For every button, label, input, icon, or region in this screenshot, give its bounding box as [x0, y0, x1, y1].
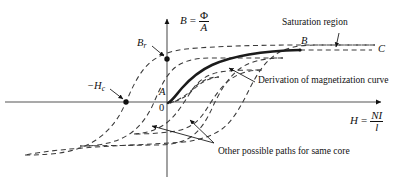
- major-hysteresis-loop: [25, 45, 375, 155]
- br-label-subscript: r: [143, 41, 146, 50]
- y-axis-symbol: B: [180, 14, 187, 26]
- y-axis-label: B=ΦA: [180, 10, 209, 33]
- y-axis-denominator: A: [199, 22, 209, 33]
- minor-loop-3-upper-branch: [170, 77, 219, 103]
- saturation-region-annotation: Saturation region: [282, 18, 348, 28]
- y-axis-equals: =: [190, 14, 196, 26]
- minor-loop-3-lower-branch: [170, 77, 219, 103]
- x-axis-equals: =: [361, 114, 367, 126]
- major-loop-lower-branch: [25, 45, 375, 155]
- hc-leader-arrow: [110, 89, 123, 99]
- origin-label: 0: [159, 103, 164, 114]
- hysteresis-figure: B=ΦA H=NIl Br −Hc A 0 B C Saturation reg…: [0, 0, 409, 185]
- point-b-label: B: [301, 36, 307, 47]
- hc-label: −Hc: [87, 81, 105, 92]
- derivation-annotation: Derivation of magnetization curve: [258, 76, 389, 86]
- x-axis-symbol: H: [350, 114, 358, 126]
- br-point-dot: [164, 56, 169, 61]
- point-c-label: C: [378, 44, 385, 55]
- x-axis-denominator: l: [370, 122, 383, 133]
- hc-label-symbol: −H: [87, 80, 102, 91]
- hc-label-subscript: c: [102, 84, 105, 93]
- point-a-label: A: [159, 87, 165, 98]
- hc-point-dot: [123, 99, 128, 104]
- x-axis-label: H=NIl: [350, 110, 383, 133]
- x-axis-fraction: NIl: [370, 110, 383, 133]
- y-axis-fraction: ΦA: [199, 10, 209, 33]
- other-paths-annotation: Other possible paths for same core: [218, 147, 350, 157]
- minor-hysteresis-loop-3: [170, 77, 219, 103]
- br-leader-arrow: [152, 46, 164, 56]
- b-point-dot: [298, 48, 301, 51]
- br-label: Br: [137, 38, 146, 49]
